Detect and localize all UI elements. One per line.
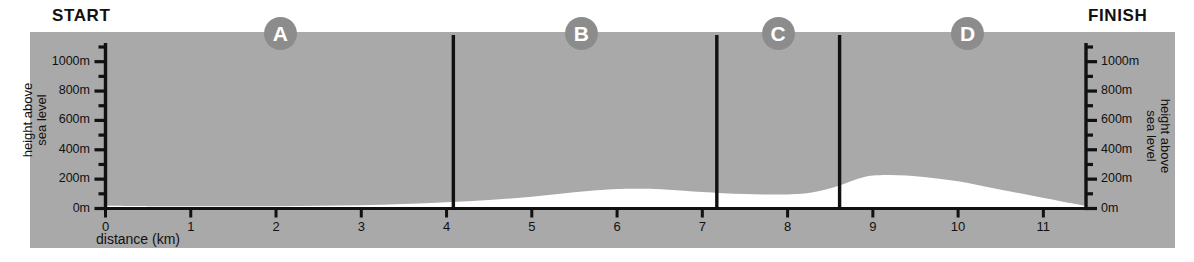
y-axis-title-right: height above sea level (1144, 88, 1172, 184)
y-axis-title-right-line1: height above (1158, 88, 1172, 184)
y-axis-title-right-line2: sea level (1144, 88, 1158, 184)
y-axis-title-left-line2: sea level (35, 72, 49, 168)
x-tick-label: 6 (605, 219, 629, 234)
stage-marker-a[interactable]: A (264, 17, 297, 50)
y-axis-title-left: height above sea level (21, 72, 49, 168)
stage-marker-b[interactable]: B (565, 17, 598, 50)
x-tick-label: 2 (264, 219, 288, 234)
x-tick-label: 3 (349, 219, 373, 234)
x-tick-label: 4 (435, 219, 459, 234)
y-tick-label-right: 0m (1101, 201, 1163, 215)
x-axis-title: distance (km) (96, 231, 180, 247)
y-tick-label-left: 1000m (28, 54, 90, 68)
start-label: START (52, 6, 110, 26)
y-tick-label-left: 0m (28, 201, 90, 215)
y-tick-label-left: 200m (28, 171, 90, 185)
stage-marker-c[interactable]: C (762, 17, 795, 50)
x-tick-label: 5 (520, 219, 544, 234)
y-tick-label-right: 1000m (1101, 54, 1163, 68)
x-tick-label: 8 (776, 219, 800, 234)
finish-label: FINISH (1088, 6, 1147, 26)
y-axis-title-left-line1: height above (21, 72, 35, 168)
stage-marker-d[interactable]: D (951, 17, 984, 50)
x-tick-label: 1 (179, 219, 203, 234)
x-tick-label: 7 (690, 219, 714, 234)
chart-panel (30, 32, 1175, 248)
x-tick-label: 11 (1031, 219, 1055, 234)
x-tick-label: 10 (946, 219, 970, 234)
x-tick-label: 9 (861, 219, 885, 234)
elevation-profile-figure: START FINISH ABCD 0m200m400m600m800m1000… (0, 0, 1194, 262)
